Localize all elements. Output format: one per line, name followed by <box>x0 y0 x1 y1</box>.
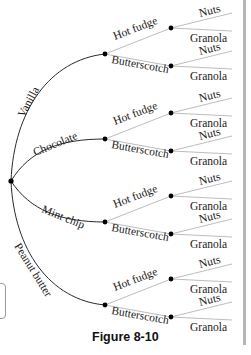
topping-node <box>169 194 174 199</box>
flavor-label: Vanilla <box>15 85 41 119</box>
extra-branch <box>171 234 232 237</box>
topping-label: Butterscotch <box>111 221 171 243</box>
topping-node <box>169 26 174 31</box>
extra-branch <box>171 196 232 199</box>
flavor-label: Peanut butter <box>12 241 55 299</box>
figure-caption: Figure 8-10 <box>92 330 159 344</box>
flavor-node <box>103 303 108 308</box>
flavor-node <box>103 52 108 57</box>
side-callout-box <box>0 283 6 319</box>
topping-label: Butterscotch <box>111 138 171 160</box>
topping-label: Hot fudge <box>111 265 159 294</box>
topping-node <box>169 277 174 282</box>
flavor-node <box>103 220 108 225</box>
extra-label: Granola <box>190 155 227 167</box>
flavor-node <box>103 137 108 142</box>
tree-diagram: VanillaHot fudgeNutsGranolaButterscotchN… <box>0 0 251 355</box>
extra-branch <box>171 113 232 116</box>
topping-label: Hot fudge <box>111 14 159 43</box>
extra-branch <box>171 151 232 154</box>
extra-label: Granola <box>190 321 227 333</box>
page-edge-scrollbar <box>243 0 246 345</box>
flavor-label: Mint chip <box>40 203 87 232</box>
topping-label: Butterscotch <box>111 53 171 75</box>
topping-label: Hot fudge <box>111 99 159 128</box>
topping-label: Hot fudge <box>111 182 159 211</box>
extra-branch <box>171 317 232 320</box>
flavor-label: Chocolate <box>31 129 79 158</box>
topping-label: Butterscotch <box>111 304 171 326</box>
topping-node <box>169 111 174 116</box>
flavor-branch <box>11 181 105 305</box>
extra-label: Granola <box>190 238 227 250</box>
extra-label: Granola <box>190 70 227 82</box>
extra-branch <box>171 28 232 31</box>
extra-branch <box>171 279 232 282</box>
tree-diagram-figure: VanillaHot fudgeNutsGranolaButterscotchN… <box>0 0 251 355</box>
extra-branch <box>171 66 232 69</box>
root-node <box>8 178 13 183</box>
